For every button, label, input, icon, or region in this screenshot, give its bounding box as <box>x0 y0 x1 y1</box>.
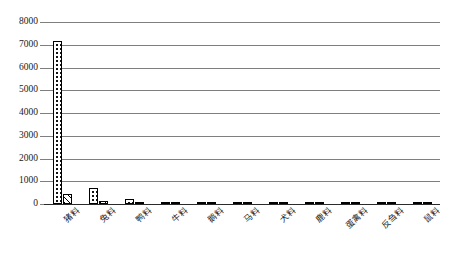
bar-series-2 <box>387 202 396 204</box>
y-tick-label: 7000 <box>0 40 38 50</box>
y-tick-label: 0 <box>0 199 38 209</box>
x-tick-label: 兔料 <box>99 206 118 225</box>
bar-series-1 <box>269 202 278 204</box>
y-tick-label: 8000 <box>0 17 38 27</box>
bar-series-2 <box>207 202 216 204</box>
bar-group <box>296 22 332 204</box>
bar-group <box>116 22 152 204</box>
bar-series-2 <box>243 202 252 204</box>
bar-series-1 <box>125 199 134 204</box>
x-tick-label: 鹅料 <box>207 206 226 225</box>
y-tick-label: 3000 <box>0 131 38 141</box>
bar-group <box>44 22 80 204</box>
bar-series-2 <box>315 202 324 204</box>
x-tick-label: 反刍料 <box>380 206 406 231</box>
bar-series-1 <box>377 202 386 204</box>
x-tick-label: 鹿料 <box>315 206 334 225</box>
x-tick-label: 犬料 <box>279 206 298 225</box>
bar-series-2 <box>63 194 72 204</box>
plot-area <box>44 22 440 204</box>
bar-series-1 <box>89 188 98 204</box>
bar-group <box>80 22 116 204</box>
bar-series-1 <box>53 41 62 204</box>
y-tick-label: 6000 <box>0 63 38 73</box>
bar-series-1 <box>305 202 314 204</box>
bar-group <box>152 22 188 204</box>
bar-series-2 <box>171 202 180 204</box>
x-tick-label: 蛋禽料 <box>344 206 370 231</box>
bar-series-1 <box>341 202 350 204</box>
axis-baseline <box>44 204 440 205</box>
bar-series-2 <box>423 202 432 204</box>
bar-series-1 <box>197 202 206 204</box>
bar-series-2 <box>135 202 144 204</box>
bar-group <box>224 22 260 204</box>
bar-series-1 <box>161 202 170 205</box>
bar-group <box>332 22 368 204</box>
bar-group <box>368 22 404 204</box>
bar-series-2 <box>351 202 360 204</box>
bar-group <box>260 22 296 204</box>
bar-series-1 <box>233 202 242 204</box>
bar-series-2 <box>279 202 288 204</box>
x-tick-label: 牛料 <box>171 206 190 225</box>
bar-group <box>188 22 224 204</box>
bar-series-1 <box>413 202 422 204</box>
x-tick-label: 马料 <box>243 206 262 225</box>
x-axis: 猪料兔料鸭料牛料鹅料马料犬料鹿料蛋禽料反刍料鼠料 <box>44 206 440 258</box>
bar-chart: 010002000300040005000600070008000 猪料兔料鸭料… <box>0 0 463 258</box>
y-tick-label: 4000 <box>0 108 38 118</box>
y-tick-label: 1000 <box>0 176 38 186</box>
y-tick-label: 5000 <box>0 85 38 95</box>
bar-group <box>404 22 440 204</box>
x-tick-label: 猪料 <box>63 206 82 225</box>
x-tick-label: 鼠料 <box>423 206 442 225</box>
y-tick-label: 2000 <box>0 154 38 164</box>
bar-series-2 <box>99 201 108 204</box>
x-tick-label: 鸭料 <box>135 206 154 225</box>
